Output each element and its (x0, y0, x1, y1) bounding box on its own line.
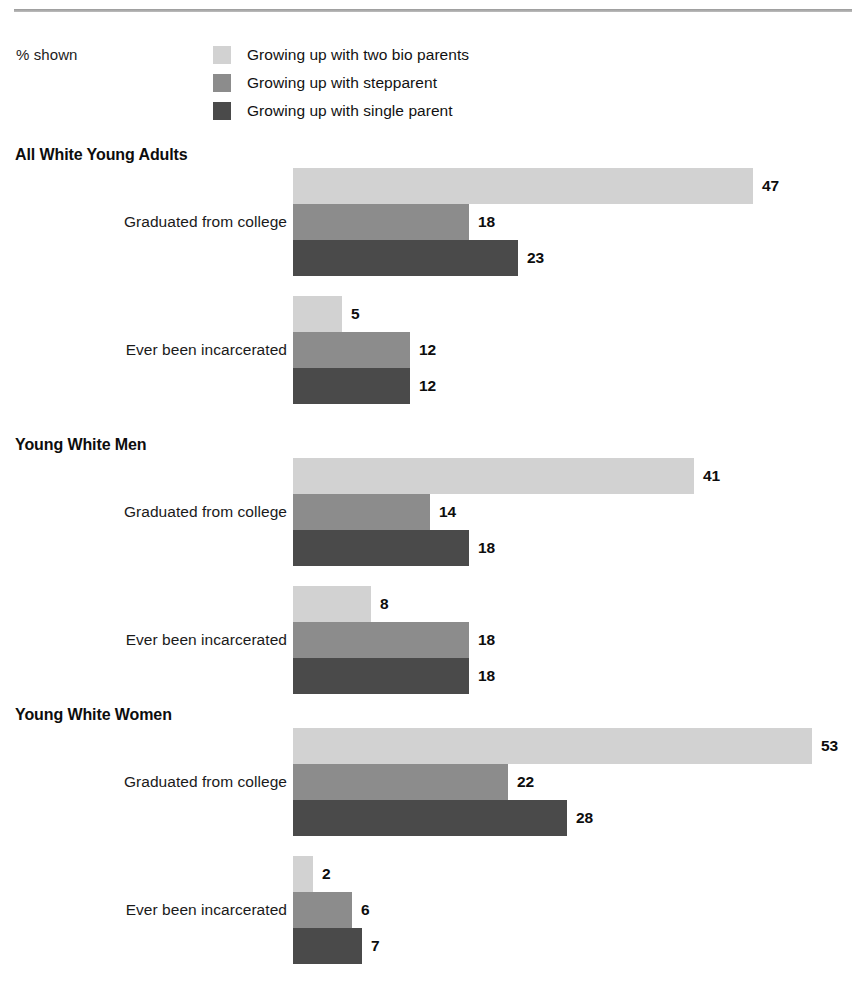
bar-group: Graduated from college471823 (0, 168, 866, 276)
legend-item: Growing up with two bio parents (213, 42, 469, 68)
bar-value-label: 28 (576, 810, 593, 826)
legend-swatch-single-parent (213, 102, 231, 120)
bar-group: Ever been incarcerated81818 (0, 586, 866, 694)
bar-row: 6 (293, 892, 370, 928)
bar (293, 368, 410, 404)
bar-group: Graduated from college532228 (0, 728, 866, 836)
bar-row: 5 (293, 296, 360, 332)
legend-item: Growing up with single parent (213, 98, 453, 124)
bar-row: 47 (293, 168, 779, 204)
bar-value-label: 18 (478, 214, 495, 230)
bar-group-label: Ever been incarcerated (126, 856, 287, 964)
bar (293, 658, 469, 694)
bar-value-label: 18 (478, 668, 495, 684)
bar-value-label: 6 (361, 902, 370, 918)
percent-shown-label: % shown (16, 46, 78, 63)
bar-value-label: 7 (371, 938, 380, 954)
bar-row: 12 (293, 368, 436, 404)
legend-item-label: Growing up with stepparent (247, 74, 437, 92)
bar (293, 892, 352, 928)
bar (293, 586, 371, 622)
bar-row: 23 (293, 240, 544, 276)
bar-row: 12 (293, 332, 436, 368)
bar (293, 928, 362, 964)
bar (293, 728, 812, 764)
section-title: Young White Men (15, 436, 147, 454)
bar-group-label: Graduated from college (124, 728, 287, 836)
bar (293, 622, 469, 658)
bar-group: Ever been incarcerated51212 (0, 296, 866, 404)
bar-row: 18 (293, 622, 495, 658)
bar-row: 7 (293, 928, 380, 964)
bar (293, 168, 753, 204)
bar-value-label: 5 (351, 306, 360, 322)
bar-value-label: 2 (322, 866, 331, 882)
bar-value-label: 14 (439, 504, 456, 520)
legend-item-label: Growing up with single parent (247, 102, 453, 120)
bar-row: 2 (293, 856, 331, 892)
bar-value-label: 22 (517, 774, 534, 790)
bar-group-label: Ever been incarcerated (126, 296, 287, 404)
bar-value-label: 41 (703, 468, 720, 484)
bar-value-label: 47 (762, 178, 779, 194)
bar-value-label: 53 (821, 738, 838, 754)
chart-section: All White Young AdultsGraduated from col… (0, 146, 866, 426)
legend-swatch-two-bio-parents (213, 46, 231, 64)
section-title: All White Young Adults (15, 146, 188, 164)
legend-item: Growing up with stepparent (213, 70, 437, 96)
bar (293, 240, 518, 276)
section-title: Young White Women (15, 706, 172, 724)
bar (293, 332, 410, 368)
bar-row: 22 (293, 764, 534, 800)
bar-row: 18 (293, 658, 495, 694)
bar-value-label: 12 (419, 342, 436, 358)
bar-row: 18 (293, 204, 495, 240)
bar-row: 28 (293, 800, 593, 836)
bar-group-label: Graduated from college (124, 458, 287, 566)
chart-section: Young White WomenGraduated from college5… (0, 706, 866, 986)
bar-row: 18 (293, 530, 495, 566)
bar (293, 530, 469, 566)
bar-group: Graduated from college411418 (0, 458, 866, 566)
bar-group-label: Ever been incarcerated (126, 586, 287, 694)
bar (293, 764, 508, 800)
bar (293, 458, 694, 494)
bar (293, 204, 469, 240)
bar-row: 53 (293, 728, 838, 764)
bar (293, 296, 342, 332)
chart-legend: % shown Growing up with two bio parentsG… (0, 40, 866, 130)
chart-section: Young White MenGraduated from college411… (0, 436, 866, 716)
bar-row: 14 (293, 494, 456, 530)
bar-value-label: 8 (380, 596, 389, 612)
bar-value-label: 12 (419, 378, 436, 394)
bar (293, 800, 567, 836)
bar-row: 41 (293, 458, 720, 494)
bar (293, 856, 313, 892)
bar-value-label: 18 (478, 632, 495, 648)
legend-swatch-stepparent (213, 74, 231, 92)
bar-group-label: Graduated from college (124, 168, 287, 276)
legend-item-label: Growing up with two bio parents (247, 46, 469, 64)
bar-group: Ever been incarcerated267 (0, 856, 866, 964)
bar-row: 8 (293, 586, 389, 622)
bar (293, 494, 430, 530)
header-divider-rule (14, 9, 852, 12)
bar-value-label: 23 (527, 250, 544, 266)
bar-value-label: 18 (478, 540, 495, 556)
